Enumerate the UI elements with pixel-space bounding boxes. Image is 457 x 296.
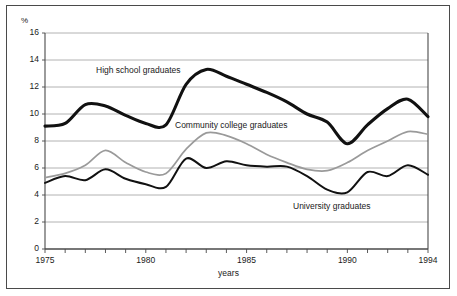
y-axis-tick-label: 2 [17,217,39,226]
x-axis-tick-label: 1985 [227,256,267,265]
x-axis-tick-label: 1994 [408,256,448,265]
y-axis-tick-label: 4 [17,190,39,199]
y-axis-tick-label: 8 [17,136,39,145]
series-line [45,69,428,143]
y-axis-tick-label: 0 [17,244,39,253]
series-annotation-university: University graduates [293,201,370,211]
x-axis-tick-label: 1990 [327,256,367,265]
y-axis-tick-label: 6 [17,163,39,172]
chart-figure: % High school graduates Community colleg… [0,0,457,296]
x-axis-title: years [0,268,457,278]
series-line [45,158,428,193]
series-annotation-community-college: Community college graduates [175,120,287,130]
x-axis-tick-label: 1980 [126,256,166,265]
y-axis-tick-label: 12 [17,82,39,91]
chart-canvas [0,0,457,296]
series-annotation-high-school: High school graduates [96,65,181,75]
y-axis-tick-label: 14 [17,55,39,64]
x-axis-tick-label: 1975 [25,256,65,265]
y-axis-tick-label: 16 [17,28,39,37]
y-axis-tick-label: 10 [17,109,39,118]
